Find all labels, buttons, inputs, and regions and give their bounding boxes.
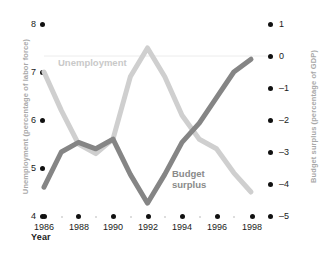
plot-area	[0, 0, 322, 255]
series-label-unemployment: Unemployment	[58, 57, 127, 68]
series-label-budget: Budget surplus	[172, 168, 206, 190]
dual-axis-line-chart: Unemployment (percentage of labor force)…	[0, 0, 322, 255]
series-label-budget-line1: Budget	[172, 168, 205, 179]
budget-surplus-line	[44, 59, 251, 203]
series-label-budget-line2: surplus	[172, 179, 206, 190]
unemployment-line	[44, 48, 251, 192]
